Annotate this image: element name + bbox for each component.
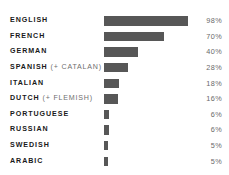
category-label: PORTUGUESE: [10, 107, 69, 123]
chart-row: DUTCH (+ FLEMISH)16%: [0, 91, 229, 107]
category-label: SPANISH (+ CATALAN): [10, 60, 102, 76]
bar-track: [104, 63, 188, 72]
bar: [104, 16, 188, 25]
bar-track: [104, 125, 188, 134]
value-label: 5%: [211, 138, 222, 154]
chart-row: PORTUGUESE6%: [0, 107, 229, 123]
value-label: 98%: [206, 13, 222, 29]
category-label-qualifier: (+ FLEMISH): [43, 94, 93, 102]
category-label-main: SPANISH: [10, 63, 51, 71]
category-label: RUSSIAN: [10, 122, 49, 138]
bar: [104, 157, 108, 166]
category-label: ITALIAN: [10, 76, 44, 92]
bar-track: [104, 94, 188, 103]
bar-track: [104, 79, 188, 88]
category-label: ARABIC: [10, 154, 43, 170]
value-label: 16%: [206, 91, 222, 107]
category-label-main: PORTUGUESE: [10, 110, 69, 118]
category-label-main: ITALIAN: [10, 79, 44, 87]
value-label: 6%: [211, 107, 222, 123]
bar: [104, 141, 108, 150]
bar: [104, 32, 164, 41]
bar-track: [104, 47, 188, 56]
bar: [104, 94, 118, 103]
chart-row: GERMAN40%: [0, 44, 229, 60]
category-label: SWEDISH: [10, 138, 50, 154]
category-label-main: SWEDISH: [10, 141, 50, 149]
chart-row: RUSSIAN6%: [0, 122, 229, 138]
category-label-main: DUTCH: [10, 94, 43, 102]
value-label: 28%: [206, 60, 222, 76]
value-label: 18%: [206, 76, 222, 92]
category-label-qualifier: (+ CATALAN): [51, 63, 102, 71]
category-label: GERMAN: [10, 44, 47, 60]
category-label: DUTCH (+ FLEMISH): [10, 91, 93, 107]
bar-track: [104, 141, 188, 150]
bar: [104, 79, 119, 88]
chart-row: ITALIAN18%: [0, 76, 229, 92]
category-label-main: ENGLISH: [10, 16, 48, 24]
chart-row: ENGLISH98%: [0, 13, 229, 29]
bar: [104, 110, 109, 119]
bar: [104, 47, 138, 56]
bar-track: [104, 16, 188, 25]
category-label-main: GERMAN: [10, 47, 47, 55]
value-label: 6%: [211, 122, 222, 138]
chart-row: FRENCH70%: [0, 29, 229, 45]
value-label: 40%: [206, 44, 222, 60]
bar: [104, 63, 128, 72]
value-label: 5%: [211, 154, 222, 170]
bar-track: [104, 157, 188, 166]
category-label-main: RUSSIAN: [10, 125, 49, 133]
chart-row: SWEDISH5%: [0, 138, 229, 154]
category-label-main: FRENCH: [10, 32, 45, 40]
bar: [104, 125, 109, 134]
value-label: 70%: [206, 29, 222, 45]
bar-track: [104, 110, 188, 119]
chart-row: SPANISH (+ CATALAN)28%: [0, 60, 229, 76]
chart-row: ARABIC5%: [0, 154, 229, 170]
horizontal-bar-chart: ENGLISH98%FRENCH70%GERMAN40%SPANISH (+ C…: [0, 0, 229, 175]
category-label-main: ARABIC: [10, 157, 43, 165]
category-label: ENGLISH: [10, 13, 48, 29]
category-label: FRENCH: [10, 29, 45, 45]
bar-track: [104, 32, 188, 41]
